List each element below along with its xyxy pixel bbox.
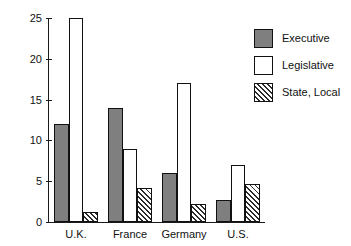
bar bbox=[216, 200, 231, 222]
bar bbox=[54, 124, 69, 222]
y-tick-label: 5 bbox=[36, 176, 42, 187]
legend-swatch-icon bbox=[254, 83, 273, 102]
bar bbox=[162, 173, 177, 222]
legend-item: Legislative bbox=[254, 54, 349, 77]
legend-label: Legislative bbox=[282, 60, 334, 71]
legend-item: State, Local bbox=[254, 81, 349, 104]
bar bbox=[137, 188, 152, 222]
legend-label: Executive bbox=[282, 33, 330, 44]
bar bbox=[245, 184, 260, 222]
legend-item: Executive bbox=[254, 27, 349, 50]
bar-chart: 0510152025 U.K.FranceGermanyU.S. Executi… bbox=[0, 0, 351, 246]
legend-label: State, Local bbox=[282, 87, 340, 98]
plot-area: 0510152025 U.K.FranceGermanyU.S. bbox=[48, 18, 265, 223]
y-tick-label: 10 bbox=[30, 135, 42, 146]
bar-group-u-k bbox=[49, 18, 103, 222]
y-tick-label: 0 bbox=[36, 217, 42, 228]
bar bbox=[191, 204, 206, 222]
y-tick-label: 25 bbox=[30, 13, 42, 24]
bars-layer bbox=[49, 18, 265, 222]
x-tick-label: Germany bbox=[161, 229, 206, 240]
bar-group-germany bbox=[157, 18, 211, 222]
chart-legend: ExecutiveLegislativeState, Local bbox=[254, 27, 349, 108]
bar bbox=[108, 108, 123, 222]
x-tick-label: U.S. bbox=[227, 229, 248, 240]
y-tick-mark bbox=[46, 222, 52, 223]
bar bbox=[123, 149, 138, 222]
legend-swatch-icon bbox=[254, 56, 273, 75]
bar bbox=[177, 83, 192, 222]
bar bbox=[83, 212, 98, 222]
bar-group-france bbox=[103, 18, 157, 222]
y-tick-label: 20 bbox=[30, 53, 42, 64]
bar bbox=[69, 18, 84, 222]
x-tick-label: U.K. bbox=[65, 229, 86, 240]
bar bbox=[231, 165, 246, 222]
x-tick-label: France bbox=[113, 229, 147, 240]
legend-swatch-icon bbox=[254, 29, 273, 48]
y-tick-label: 15 bbox=[30, 94, 42, 105]
